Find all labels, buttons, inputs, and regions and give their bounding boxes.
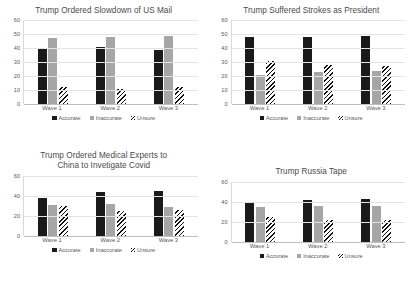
gridline: [24, 20, 198, 21]
bar-inaccurate[interactable]: [106, 204, 115, 236]
y-axis: 0204060: [6, 176, 22, 236]
chart-title: Trump Ordered Medical Experts to China t…: [0, 145, 208, 172]
bar-inaccurate[interactable]: [314, 206, 323, 242]
bar-accurate[interactable]: [38, 198, 47, 236]
legend-item[interactable]: Accurate: [52, 115, 80, 121]
x-axis-tick: Wave 1: [237, 243, 282, 249]
bar-unsure[interactable]: [324, 220, 333, 242]
legend-item[interactable]: Unsure: [338, 253, 362, 259]
bar-inaccurate[interactable]: [372, 206, 381, 242]
chart-title: Trump Suffered Strokes as President: [208, 0, 415, 16]
y-axis-tick: 20: [14, 73, 20, 79]
legend-label: Unsure: [345, 115, 363, 121]
legend-swatch-accurate-icon: [52, 248, 56, 252]
gridline: [24, 48, 198, 49]
y-axis-tick: 20: [221, 219, 227, 225]
gridline: [232, 34, 406, 35]
x-axis: Wave 1Wave 2Wave 3: [231, 105, 406, 111]
bar-groups: [24, 176, 198, 236]
gridline: [232, 90, 406, 91]
bar-inaccurate[interactable]: [256, 207, 265, 242]
gridline: [232, 202, 406, 203]
bar-inaccurate[interactable]: [106, 37, 115, 104]
bar-inaccurate[interactable]: [48, 205, 57, 236]
legend-label: Unsure: [137, 115, 155, 121]
gridline: [232, 62, 406, 63]
bar-unsure[interactable]: [117, 211, 126, 236]
legend-item[interactable]: Inaccurate: [90, 115, 122, 121]
legend-item[interactable]: Inaccurate: [297, 253, 329, 259]
y-axis-tick: 30: [14, 59, 20, 65]
plot-area: 0102030405060: [214, 20, 406, 104]
bar-group: [88, 176, 133, 236]
bar-accurate[interactable]: [361, 36, 370, 105]
legend-item[interactable]: Inaccurate: [90, 247, 122, 253]
bar-unsure[interactable]: [175, 210, 184, 236]
gridline: [232, 48, 406, 49]
legend-item[interactable]: Accurate: [52, 247, 80, 253]
y-axis-tick: 10: [14, 87, 20, 93]
bar-inaccurate[interactable]: [164, 207, 173, 236]
legend-swatch-unsure-icon: [338, 254, 342, 258]
bar-accurate[interactable]: [154, 191, 163, 236]
y-axis-tick: 40: [14, 45, 20, 51]
chart-legend: AccurateInaccurateUnsure: [208, 253, 415, 259]
bar-unsure[interactable]: [59, 206, 68, 236]
x-axis-tick: Wave 2: [88, 237, 133, 243]
x-axis: Wave 1Wave 2Wave 3: [23, 105, 198, 111]
y-axis-tick: 20: [221, 73, 227, 79]
legend-label: Accurate: [59, 115, 81, 121]
legend-item[interactable]: Unsure: [338, 115, 362, 121]
y-axis-tick: 60: [221, 179, 227, 185]
bar-accurate[interactable]: [96, 192, 105, 236]
y-axis-tick: 50: [14, 31, 20, 37]
x-axis-tick: Wave 3: [353, 105, 398, 111]
y-axis: 0204060: [214, 182, 230, 242]
gridline: [24, 90, 198, 91]
gridline: [24, 76, 198, 77]
bar-unsure[interactable]: [382, 66, 391, 104]
bar-group: [146, 176, 191, 236]
y-axis-tick: 40: [14, 193, 20, 199]
bar-groups: [232, 182, 406, 242]
legend-label: Unsure: [137, 247, 155, 253]
legend-swatch-accurate-icon: [260, 254, 264, 258]
legend-label: Inaccurate: [303, 253, 329, 259]
legend-item[interactable]: Inaccurate: [297, 115, 329, 121]
legend-swatch-unsure-icon: [131, 116, 135, 120]
legend-item[interactable]: Unsure: [131, 115, 155, 121]
y-axis-tick: 20: [14, 213, 20, 219]
bar-accurate[interactable]: [245, 37, 254, 104]
legend-swatch-inaccurate-icon: [90, 116, 94, 120]
legend-label: Accurate: [266, 253, 288, 259]
legend-swatch-inaccurate-icon: [90, 248, 94, 252]
legend-item[interactable]: Accurate: [260, 115, 288, 121]
plot-area: 0102030405060: [6, 20, 198, 104]
legend-swatch-inaccurate-icon: [297, 116, 301, 120]
gridline: [232, 182, 406, 183]
chart-title-line-2: China to Invetigate Covid: [0, 161, 208, 171]
legend-label: Accurate: [59, 247, 81, 253]
x-axis-tick: Wave 3: [146, 237, 191, 243]
legend-swatch-unsure-icon: [131, 248, 135, 252]
legend-item[interactable]: Accurate: [260, 253, 288, 259]
bar-unsure[interactable]: [266, 217, 275, 242]
bar-accurate[interactable]: [361, 199, 370, 242]
bar-unsure[interactable]: [382, 220, 391, 242]
gridline: [24, 34, 198, 35]
bar-accurate[interactable]: [303, 37, 312, 104]
legend-label: Accurate: [266, 115, 288, 121]
chart-panel-medical-experts: Trump Ordered Medical Experts to China t…: [0, 145, 208, 289]
x-axis: Wave 1Wave 2Wave 3: [23, 237, 198, 243]
x-axis-tick: Wave 2: [88, 105, 133, 111]
gridline: [24, 62, 198, 63]
bar-inaccurate[interactable]: [164, 36, 173, 105]
chart-title-line-1: Trump Ordered Medical Experts to: [0, 151, 208, 161]
y-axis-tick: 10: [221, 87, 227, 93]
gridline: [24, 196, 198, 197]
bar-unsure[interactable]: [324, 65, 333, 104]
legend-item[interactable]: Unsure: [131, 247, 155, 253]
x-axis-tick: Wave 1: [29, 105, 74, 111]
bar-unsure[interactable]: [266, 61, 275, 104]
bar-group: [354, 182, 399, 242]
